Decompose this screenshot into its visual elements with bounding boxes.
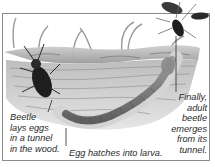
- flying-adult-beetle: [156, 0, 209, 38]
- caption-emerge: Finally, adult beetle emerges from its t…: [171, 92, 207, 156]
- caption-hatch: Egg hatches into larva.: [69, 148, 162, 159]
- caption-lay-eggs: Beetle lays eggs in a tunnel in the wood…: [10, 112, 60, 154]
